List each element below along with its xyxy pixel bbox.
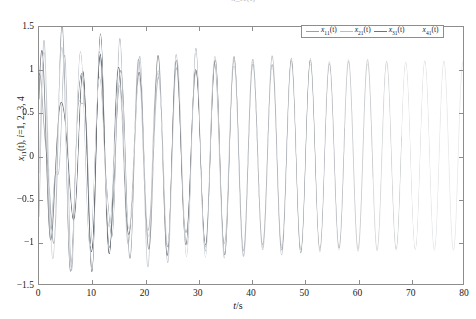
legend-swatch: [306, 31, 319, 32]
x-tick: [146, 280, 147, 284]
x-tick-label: 10: [71, 288, 111, 299]
x-tick: [199, 280, 200, 284]
legend-entry: x21(t): [340, 25, 371, 38]
legend-swatch: [340, 31, 353, 32]
x-tick-top: [252, 27, 253, 31]
y-tick-label: −0.5: [0, 193, 34, 204]
x-tick: [252, 280, 253, 284]
y-tick-label: 0: [0, 150, 34, 161]
y-tick-label: 1: [0, 64, 34, 75]
legend-entry: x11(t): [306, 25, 337, 38]
plot-canvas: [39, 27, 463, 284]
y-tick: [39, 113, 43, 114]
y-tick: [39, 157, 43, 158]
legend-label: x31(t): [389, 25, 405, 38]
x-tick: [92, 280, 93, 284]
legend-label: x41(t): [423, 25, 439, 38]
y-tick-right: [459, 200, 463, 201]
y-tick-right: [459, 243, 463, 244]
y-tick: [39, 243, 43, 244]
x-axis-label: t/s: [0, 300, 476, 311]
x-tick-label: 40: [231, 288, 271, 299]
x-tick-label: 20: [125, 288, 165, 299]
y-tick-label: −1.5: [0, 280, 34, 291]
y-tick-label: −1: [0, 236, 34, 247]
y-tick-label: 0.5: [0, 107, 34, 118]
x-tick-label: 70: [391, 288, 431, 299]
y-tick-right: [459, 157, 463, 158]
y-tick-right: [459, 113, 463, 114]
legend-label: x11(t): [321, 25, 337, 38]
legend-swatch: [374, 31, 387, 32]
legend-entry: x31(t): [374, 25, 405, 38]
x-tick-top: [199, 27, 200, 31]
x-tick: [412, 280, 413, 284]
x-tick-label: 50: [284, 288, 324, 299]
y-tick-label: 1.5: [0, 21, 34, 32]
x-tick-label: 80: [444, 288, 476, 299]
x-tick: [359, 280, 360, 284]
legend-entry: x41(t): [408, 25, 439, 38]
legend-swatch: [408, 31, 421, 32]
x-tick-label: 30: [178, 288, 218, 299]
plot-area: [38, 26, 464, 285]
x-tick: [305, 280, 306, 284]
x-tick-label: 60: [338, 288, 378, 299]
legend-label: x21(t): [355, 25, 371, 38]
y-tick-right: [459, 70, 463, 71]
x-axis-label-unit: /s: [236, 300, 243, 311]
legend: x11(t)x21(t)x31(t)x41(t): [301, 25, 444, 38]
x-tick-top: [146, 27, 147, 31]
figure: xi1(t), i=1, 2, 3, 4 01020304050607080−1…: [0, 0, 476, 319]
y-axis-label-index: i: [16, 135, 26, 138]
y-tick: [39, 200, 43, 201]
x-tick-top: [92, 27, 93, 31]
y-tick: [39, 70, 43, 71]
